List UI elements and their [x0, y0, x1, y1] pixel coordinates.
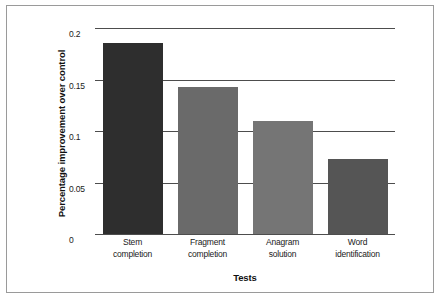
- y-tick-label: 0.2: [69, 29, 80, 39]
- x-category-label-line: solution: [245, 249, 320, 261]
- bar: [103, 43, 163, 234]
- y-tick-label: 0.1: [69, 132, 80, 142]
- bar: [328, 159, 388, 234]
- x-category-label-line: Anagram: [245, 237, 320, 249]
- plot-area: 00.050.10.150.2: [95, 28, 395, 234]
- chart-figure: Percentage improvement over control 00.0…: [0, 0, 443, 303]
- chart-frame: Percentage improvement over control 00.0…: [6, 5, 434, 293]
- x-axis-category-labels: StemcompletionFragmentcompletionAnagrams…: [95, 237, 395, 273]
- x-category-label: Stemcompletion: [95, 237, 170, 260]
- x-category-label-line: completion: [95, 249, 170, 261]
- x-category-label-line: Stem: [95, 237, 170, 249]
- bar: [178, 87, 238, 234]
- y-axis-title: Percentage improvement over control: [56, 34, 67, 234]
- y-tick-label: 0.15: [69, 81, 85, 91]
- x-category-label-line: Fragment: [170, 237, 245, 249]
- x-category-label-line: Word: [320, 237, 395, 249]
- gridline-y: [95, 28, 395, 29]
- x-category-label: Wordidentification: [320, 237, 395, 260]
- x-category-label-line: identification: [320, 249, 395, 261]
- bar: [253, 121, 313, 234]
- x-category-label-line: completion: [170, 249, 245, 261]
- x-axis-title: Tests: [95, 272, 395, 283]
- x-category-label: Anagramsolution: [245, 237, 320, 260]
- x-category-label: Fragmentcompletion: [170, 237, 245, 260]
- y-tick-label: 0: [69, 235, 74, 245]
- gridline-y: [95, 234, 395, 235]
- y-tick-label: 0.05: [69, 184, 85, 194]
